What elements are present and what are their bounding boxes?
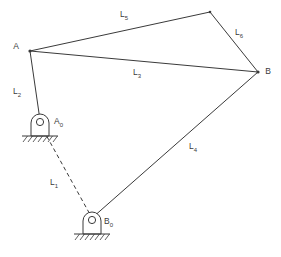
link-label-L2: L2	[13, 86, 22, 97]
link-label-L6-subscript: 6	[240, 32, 244, 38]
joint-label-b0: B0	[104, 216, 114, 227]
joint-dot-c	[209, 11, 212, 14]
link-label-L4-subscript: 4	[194, 146, 198, 152]
link-label-L6: L6	[235, 27, 244, 38]
link-label-L4: L4	[189, 141, 198, 152]
joint-label-b0-subscript: 0	[110, 221, 114, 227]
link-L6-line	[210, 12, 258, 72]
support-a0-hatching	[23, 136, 58, 142]
link-label-L1-subscript: 1	[55, 182, 59, 188]
link-group	[30, 12, 258, 218]
link-label-L5-subscript: 5	[125, 14, 129, 20]
joint-label-a0: A0	[54, 116, 64, 127]
pivot-b0-circle	[88, 216, 95, 223]
support-a0	[22, 114, 58, 142]
link-L2-line	[30, 51, 40, 120]
linkage-canvas: A B A0 B0 L1 L2 L3 L4 L5	[0, 0, 281, 257]
joint-label-b: B	[265, 66, 271, 76]
link-L3-line	[30, 51, 258, 72]
joint-label-a: A	[13, 41, 19, 51]
link-label-L2-subscript: 2	[18, 91, 22, 97]
link-L4-line	[92, 72, 258, 218]
pivot-a0-circle	[36, 118, 43, 125]
link-label-L5: L5	[120, 9, 129, 20]
support-b0-hatching	[75, 234, 110, 240]
link-label-L3-subscript: 3	[138, 72, 142, 78]
link-label-L1: L1	[50, 177, 59, 188]
link-label-group: L1 L2 L3 L4 L5 L6	[13, 9, 244, 188]
link-L1-line	[40, 124, 92, 218]
link-label-L3: L3	[133, 67, 142, 78]
joint-label-group: A B A0 B0	[13, 41, 271, 227]
joint-marker-group	[28, 11, 259, 74]
joint-dot-a	[28, 49, 31, 52]
joint-label-a0-subscript: 0	[60, 121, 64, 127]
joint-dot-b	[256, 70, 259, 73]
linkage-diagram: A B A0 B0 L1 L2 L3 L4 L5	[0, 0, 281, 257]
